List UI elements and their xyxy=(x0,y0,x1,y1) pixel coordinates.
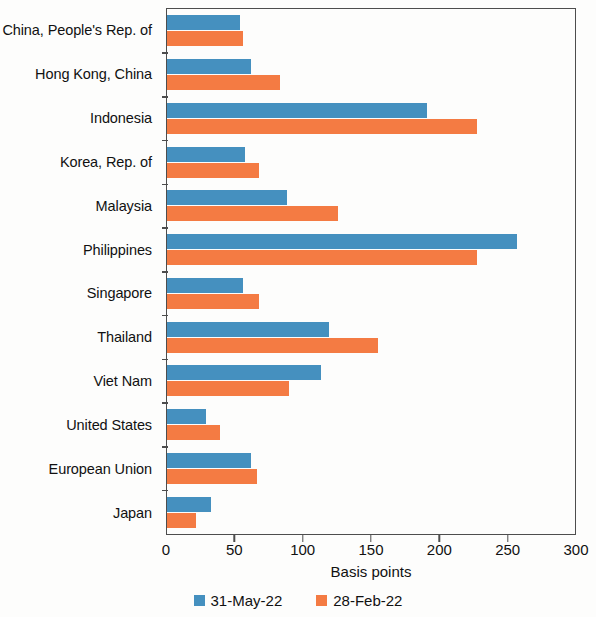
category-label: Malaysia xyxy=(0,184,160,228)
bar-series2 xyxy=(167,469,257,484)
bar-series2 xyxy=(167,250,477,265)
category-label: Singapore xyxy=(0,272,160,316)
bar-series2 xyxy=(167,381,289,396)
bar-series2 xyxy=(167,163,259,178)
bar-group xyxy=(167,403,575,447)
bar-series1 xyxy=(167,234,517,249)
bar-series2 xyxy=(167,294,259,309)
legend-swatch-icon xyxy=(194,595,205,606)
x-axis-tick-label: 100 xyxy=(290,541,315,558)
bar-group xyxy=(167,315,575,359)
category-label: Indonesia xyxy=(0,96,160,140)
category-label: Japan xyxy=(0,491,160,535)
x-axis-tick-label: 250 xyxy=(495,541,520,558)
bar-group xyxy=(167,140,575,184)
bar-series1 xyxy=(167,278,243,293)
x-axis-tick-label: 0 xyxy=(162,541,170,558)
bar-series2 xyxy=(167,206,338,221)
bar-series2 xyxy=(167,513,196,528)
x-axis-tick-labels: 050100150200250300 xyxy=(166,541,576,563)
bar-series1 xyxy=(167,453,251,468)
category-label: Thailand xyxy=(0,315,160,359)
bar-series2 xyxy=(167,119,477,134)
bar-series2 xyxy=(167,31,243,46)
x-axis-tick-label: 300 xyxy=(563,541,588,558)
category-label: China, People's Rep. of xyxy=(0,8,160,52)
x-axis-tick-label: 200 xyxy=(427,541,452,558)
plot-area xyxy=(166,8,576,535)
category-label: Philippines xyxy=(0,228,160,272)
bar-series1 xyxy=(167,59,251,74)
legend-item[interactable]: 31-May-22 xyxy=(194,592,283,609)
bar-series1 xyxy=(167,497,211,512)
category-label: United States xyxy=(0,403,160,447)
x-axis-title: Basis points xyxy=(166,563,576,580)
chart-legend: 31-May-2228-Feb-22 xyxy=(0,592,596,609)
bar-group xyxy=(167,97,575,141)
bar-series1 xyxy=(167,147,245,162)
bar-series1 xyxy=(167,365,321,380)
bar-group xyxy=(167,272,575,316)
bar-group xyxy=(167,53,575,97)
category-label: Korea, Rep. of xyxy=(0,140,160,184)
bar-group xyxy=(167,9,575,53)
bar-group xyxy=(167,447,575,491)
bar-rows xyxy=(167,9,575,534)
x-axis-tick-label: 150 xyxy=(358,541,383,558)
bar-series1 xyxy=(167,409,206,424)
bar-series1 xyxy=(167,15,240,30)
legend-label: 31-May-22 xyxy=(211,592,283,609)
bar-group xyxy=(167,228,575,272)
category-label: European Union xyxy=(0,447,160,491)
legend-swatch-icon xyxy=(316,595,327,606)
legend-item[interactable]: 28-Feb-22 xyxy=(316,592,402,609)
bar-group xyxy=(167,359,575,403)
legend-label: 28-Feb-22 xyxy=(333,592,402,609)
bar-series1 xyxy=(167,322,329,337)
bar-series2 xyxy=(167,338,378,353)
bar-group xyxy=(167,184,575,228)
bar-series1 xyxy=(167,103,427,118)
bar-chart: China, People's Rep. ofHong Kong, ChinaI… xyxy=(0,0,596,617)
bar-series2 xyxy=(167,425,220,440)
category-axis-labels: China, People's Rep. ofHong Kong, ChinaI… xyxy=(0,8,160,535)
category-label: Viet Nam xyxy=(0,359,160,403)
bar-group xyxy=(167,490,575,534)
category-label: Hong Kong, China xyxy=(0,52,160,96)
bar-series2 xyxy=(167,75,280,90)
x-axis-tick-label: 50 xyxy=(226,541,243,558)
bar-series1 xyxy=(167,190,287,205)
